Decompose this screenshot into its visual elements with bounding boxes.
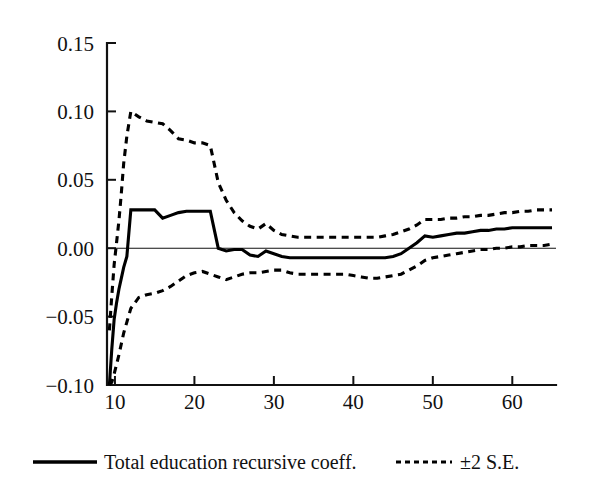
x-axis-tick-label: 20 bbox=[184, 390, 205, 414]
recursive-coefficient-chart: 0.150.100.050.00−0.05−0.10 102030405060 … bbox=[0, 0, 600, 494]
y-axis-tick-label: −0.05 bbox=[45, 305, 94, 329]
y-axis-tick-label: 0.15 bbox=[57, 32, 94, 56]
x-axis-tick-label: 10 bbox=[104, 390, 125, 414]
x-axis-tick-label: 40 bbox=[343, 390, 364, 414]
y-axis-tick-label: −0.10 bbox=[45, 374, 94, 398]
y-axis-tick-label: 0.10 bbox=[57, 100, 94, 124]
x-axis-tick-label: 50 bbox=[422, 390, 443, 414]
x-axis-tick-label: 60 bbox=[502, 390, 523, 414]
y-axis-tick-label: 0.05 bbox=[57, 168, 94, 192]
x-axis-tick-label: 30 bbox=[263, 390, 284, 414]
y-axis-tick-label: 0.00 bbox=[57, 237, 94, 261]
legend-label-coefficient: Total education recursive coeff. bbox=[104, 451, 357, 473]
legend-label-standard-error: ±2 S.E. bbox=[460, 451, 519, 473]
